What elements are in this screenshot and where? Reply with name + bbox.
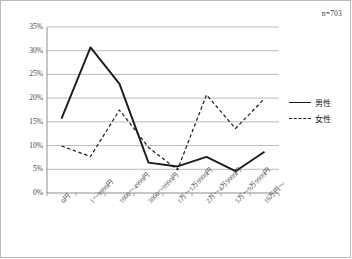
chart-plot-area: [1, 1, 352, 259]
series-line-male: [62, 47, 265, 171]
chart-legend: 男性 女性: [289, 94, 331, 126]
legend-label-female: 女性: [315, 113, 331, 124]
chart-container: n=703 0%5%10%15%20%25%30%35% 0円1〜9999円10…: [0, 0, 351, 258]
legend-item-female[interactable]: 女性: [289, 110, 331, 126]
dashed-line-icon: [289, 118, 311, 119]
gridlines: [47, 27, 279, 169]
legend-label-male: 男性: [315, 97, 331, 108]
solid-line-icon: [289, 102, 311, 103]
legend-item-male[interactable]: 男性: [289, 94, 331, 110]
axis-lines: [47, 27, 279, 193]
series-line-female: [62, 95, 265, 170]
data-series-layer: [62, 47, 265, 171]
